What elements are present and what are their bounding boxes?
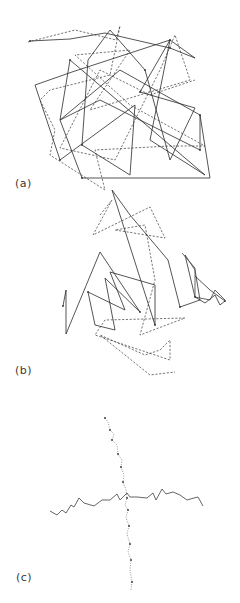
bead-marker [120, 466, 122, 468]
panel-c: (c) [0, 0, 240, 603]
bead-marker [129, 543, 131, 545]
bead-marker [126, 497, 128, 499]
bead-marker [122, 481, 124, 483]
dotted-chain-c [105, 418, 132, 590]
solid-chain-c [50, 489, 203, 515]
panel-label-c: (c) [16, 571, 32, 584]
bead-marker [104, 417, 106, 419]
bead-marker [127, 509, 129, 511]
chain-diagram-c [0, 0, 240, 603]
bead-marker [130, 559, 132, 561]
bead-marker [131, 581, 133, 583]
bead-marker [109, 429, 111, 431]
bead-marker [111, 439, 113, 441]
bead-marker [128, 525, 130, 527]
bead-marker [117, 453, 119, 455]
